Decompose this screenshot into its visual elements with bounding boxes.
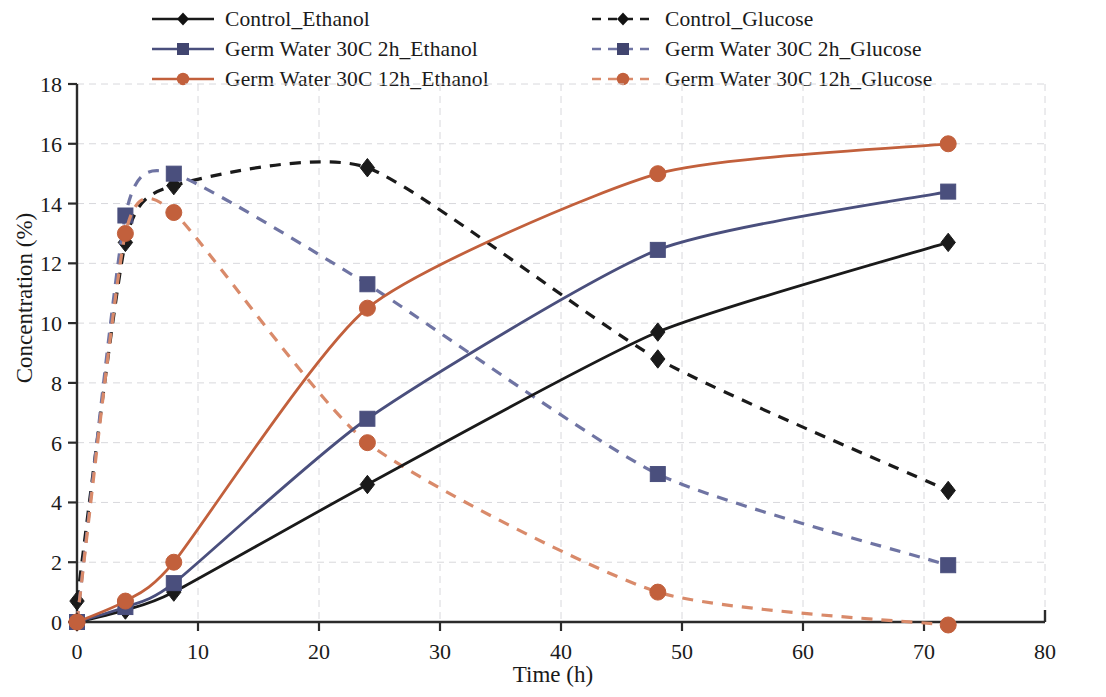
data-point-diamond <box>70 592 84 610</box>
x-axis-tick-label: 60 <box>792 639 814 664</box>
data-point-diamond <box>941 481 955 499</box>
data-point-square <box>166 576 181 591</box>
data-point-circle <box>650 584 666 600</box>
y-axis-tick-label: 18 <box>40 72 62 97</box>
x-axis-tick-label: 30 <box>429 639 451 664</box>
data-point-square <box>941 184 956 199</box>
y-axis-tick-label: 2 <box>51 550 62 575</box>
data-point-circle <box>940 136 956 152</box>
data-point-square <box>941 558 956 573</box>
data-point-circle <box>359 435 375 451</box>
x-axis-title: Time (h) <box>0 662 1106 688</box>
data-point-diamond <box>651 323 665 341</box>
data-point-diamond <box>360 475 374 493</box>
data-point-circle <box>69 614 85 630</box>
plot-area: 02468101214161801020304050607080 <box>0 0 1106 697</box>
y-axis-tick-label: 12 <box>40 251 62 276</box>
y-axis-tick-label: 6 <box>51 431 62 456</box>
data-point-diamond <box>651 350 665 368</box>
data-point-square <box>360 277 375 292</box>
y-axis-title: Concentration (%) <box>12 128 38 468</box>
y-axis-tick-label: 14 <box>40 192 62 217</box>
x-axis-tick-label: 10 <box>187 639 209 664</box>
series-line <box>77 198 948 625</box>
data-point-square <box>360 411 375 426</box>
data-point-circle <box>166 205 182 221</box>
y-axis-tick-label: 8 <box>51 371 62 396</box>
data-point-square <box>166 166 181 181</box>
data-point-square <box>650 242 665 257</box>
data-point-circle <box>940 617 956 633</box>
x-axis-tick-label: 20 <box>308 639 330 664</box>
data-point-square <box>650 467 665 482</box>
x-axis-tick-label: 70 <box>913 639 935 664</box>
data-point-circle <box>166 554 182 570</box>
data-point-circle <box>359 300 375 316</box>
x-axis-tick-label: 50 <box>671 639 693 664</box>
y-axis-tick-label: 0 <box>51 610 62 635</box>
data-point-circle <box>650 166 666 182</box>
y-axis-tick-label: 16 <box>40 132 62 157</box>
x-axis-tick-label: 40 <box>550 639 572 664</box>
data-point-diamond <box>941 233 955 251</box>
x-axis-tick-label: 0 <box>72 639 83 664</box>
series-control-ethanol <box>70 233 956 631</box>
data-point-diamond <box>360 158 374 176</box>
chart-figure: Control_Ethanol Control_Glucose Germ Wat… <box>0 0 1106 697</box>
data-point-circle <box>117 593 133 609</box>
y-axis-tick-label: 10 <box>40 311 62 336</box>
x-axis-tick-label: 80 <box>1034 639 1056 664</box>
y-axis-tick-label: 4 <box>51 490 62 515</box>
data-point-circle <box>117 225 133 241</box>
